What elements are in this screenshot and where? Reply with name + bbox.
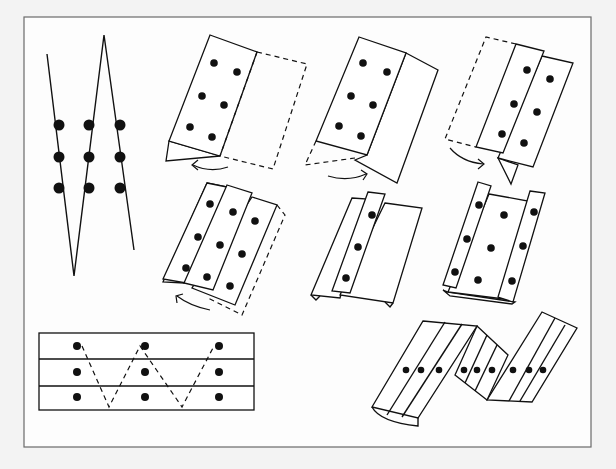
folding-diagram: [0, 0, 616, 469]
flat-layout-panel: [39, 333, 254, 410]
